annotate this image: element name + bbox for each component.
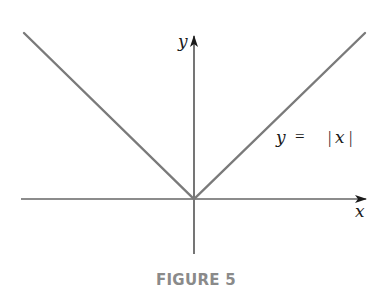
function-label-bar-right: | [349,128,352,147]
function-label-bar-left: | [328,128,331,147]
function-label-x: x [335,127,345,147]
y-axis-label: y [177,31,188,51]
function-label-equals: = [295,127,305,146]
figure-caption: FIGURE 5 [156,271,236,289]
function-label: y = | x | [275,127,352,147]
absolute-value-graph: y x y = | x | FIGURE 5 [0,0,392,294]
function-label-y: y [275,127,286,147]
x-axis-label: x [355,201,365,221]
